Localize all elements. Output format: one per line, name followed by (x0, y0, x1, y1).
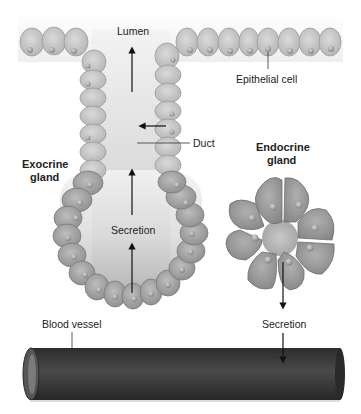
label-epithelial-cell: Epithelial cell (236, 73, 297, 85)
surface-epithelium-left (20, 27, 88, 56)
label-secretion-endocrine: Secretion (262, 318, 307, 330)
label-endocrine-line1: Endocrine (256, 141, 310, 153)
label-secretion-exocrine: Secretion (111, 224, 156, 236)
label-lumen: Lumen (117, 25, 149, 37)
label-blood-vessel: Blood vessel (42, 318, 102, 330)
label-endocrine-line2: gland (267, 154, 296, 166)
blood-vessel (23, 348, 345, 401)
label-exocrine-line1: Exocrine (22, 158, 68, 170)
gland-diagram: Lumen Epithelial cell Duct Exocrine glan… (0, 0, 361, 414)
label-exocrine-line2: gland (30, 171, 59, 183)
endocrine-cluster (226, 178, 334, 290)
label-duct: Duct (193, 137, 215, 149)
diagram-canvas: Lumen Epithelial cell Duct Exocrine glan… (0, 0, 361, 414)
